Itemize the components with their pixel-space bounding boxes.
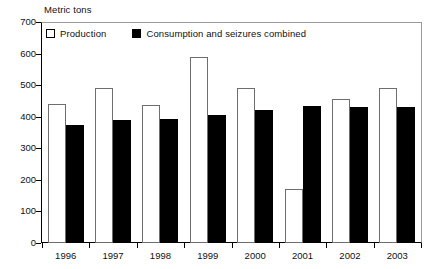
bar-2003-consumption bbox=[397, 107, 415, 243]
x-axis-tick-label-1997: 1997 bbox=[90, 250, 136, 261]
y-axis-tick bbox=[36, 54, 41, 55]
bar-2001-production bbox=[285, 189, 303, 243]
y-axis-tick-label: 600 bbox=[2, 48, 36, 59]
x-axis-tick bbox=[326, 243, 327, 248]
bar-1999-consumption bbox=[208, 115, 226, 243]
x-axis-tick-label-2002: 2002 bbox=[327, 250, 373, 261]
y-axis-tick-label: 400 bbox=[2, 111, 36, 122]
x-axis-tick bbox=[42, 243, 43, 248]
filled-square-swatch-icon bbox=[132, 29, 141, 38]
y-axis-title: Metric tons bbox=[44, 4, 92, 15]
y-axis-tick-label: 300 bbox=[2, 142, 36, 153]
legend-item-consumption: Consumption and seizures combined bbox=[132, 28, 306, 39]
bar-2003-production bbox=[379, 88, 397, 243]
bar-2000-production bbox=[237, 88, 255, 243]
bar-1998-production bbox=[142, 105, 160, 243]
x-axis-tick-label-2000: 2000 bbox=[232, 250, 278, 261]
y-axis-tick-label: 100 bbox=[2, 205, 36, 216]
y-axis-tick-label: 700 bbox=[2, 16, 36, 27]
y-axis-tick-label: 0 bbox=[2, 237, 36, 248]
legend-item-production: Production bbox=[46, 28, 106, 39]
bar-group bbox=[42, 22, 421, 243]
bar-1997-consumption bbox=[113, 120, 131, 243]
x-axis-tick bbox=[374, 243, 375, 248]
bar-2002-production bbox=[332, 99, 350, 243]
bar-2002-consumption bbox=[350, 107, 368, 243]
legend-label-consumption: Consumption and seizures combined bbox=[146, 28, 306, 39]
x-axis-tick-label-2003: 2003 bbox=[374, 250, 420, 261]
x-axis-tick bbox=[89, 243, 90, 248]
bar-chart-figure: Metric tons 7006005004003002001000 Produ… bbox=[0, 0, 436, 269]
x-axis-tick bbox=[421, 243, 422, 248]
y-axis-tick-label: 200 bbox=[2, 174, 36, 185]
y-axis-tick bbox=[36, 22, 41, 23]
x-axis-tick bbox=[137, 243, 138, 248]
x-axis-tick-label-1999: 1999 bbox=[185, 250, 231, 261]
y-axis-label-group: 7006005004003002001000 bbox=[0, 0, 36, 269]
y-axis-tick bbox=[36, 148, 41, 149]
y-axis-tick-label: 500 bbox=[2, 79, 36, 90]
bar-1999-production bbox=[190, 57, 208, 243]
x-axis-tick-label-2001: 2001 bbox=[280, 250, 326, 261]
bar-2001-consumption bbox=[303, 106, 321, 243]
bar-1998-consumption bbox=[160, 119, 178, 243]
bar-1996-production bbox=[48, 104, 66, 243]
x-axis-tick bbox=[279, 243, 280, 248]
x-axis-tick-label-1998: 1998 bbox=[137, 250, 183, 261]
chart-legend: Production Consumption and seizures comb… bbox=[46, 28, 306, 39]
y-axis-tick bbox=[36, 85, 41, 86]
bar-2000-consumption bbox=[255, 110, 273, 243]
y-axis-tick bbox=[36, 243, 41, 244]
x-axis-tick bbox=[184, 243, 185, 248]
x-axis-tick bbox=[232, 243, 233, 248]
x-axis-tick-label-1996: 1996 bbox=[43, 250, 89, 261]
y-axis-tick bbox=[36, 180, 41, 181]
open-square-swatch-icon bbox=[46, 29, 55, 38]
bar-1997-production bbox=[95, 88, 113, 243]
bar-1996-consumption bbox=[66, 125, 84, 243]
legend-label-production: Production bbox=[60, 28, 106, 39]
y-axis-tick bbox=[36, 211, 41, 212]
y-axis-tick bbox=[36, 117, 41, 118]
